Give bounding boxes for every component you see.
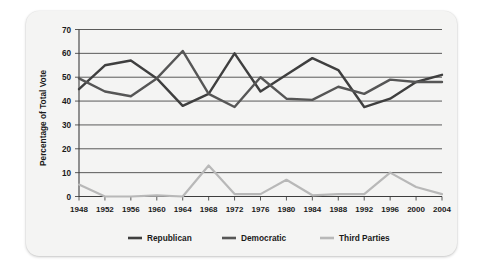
x-tick-label: 2000 — [407, 205, 425, 214]
x-tick-label: 1956 — [122, 205, 140, 214]
gridlines — [75, 30, 442, 197]
x-tick-label: 1992 — [355, 205, 373, 214]
y-tick-label: 50 — [62, 73, 72, 82]
x-tick-label: 1988 — [329, 205, 347, 214]
x-tick-label: 1960 — [148, 205, 166, 214]
y-tick-label: 40 — [62, 97, 72, 106]
x-tick-label: 1984 — [303, 205, 321, 214]
x-tick-label: 1964 — [174, 205, 192, 214]
y-tick-label: 20 — [62, 145, 72, 154]
x-tick-label: 1952 — [96, 205, 114, 214]
legend-label-democratic: Democratic — [241, 233, 287, 243]
y-tick-label: 0 — [66, 193, 71, 202]
y-tick-label: 30 — [62, 121, 72, 130]
chart-legend: RepublicanDemocraticThird Parties — [128, 233, 390, 243]
vote-percentage-line-chart: Percentage of Total Vote 010203040506070… — [0, 0, 483, 267]
chart-container: Percentage of Total Vote 010203040506070… — [0, 0, 483, 267]
x-axis-tick-labels: 1948195219561960196419681972197619801984… — [70, 205, 451, 214]
x-tick-label: 1980 — [278, 205, 296, 214]
y-axis-tick-labels: 010203040506070 — [62, 26, 72, 202]
y-axis-title-group: Percentage of Total Vote — [38, 70, 48, 166]
y-tick-label: 60 — [62, 49, 72, 58]
x-tick-label: 1948 — [70, 205, 88, 214]
legend-label-republican: Republican — [147, 233, 192, 243]
x-tick-label: 1968 — [200, 205, 218, 214]
series-line-third-parties — [79, 165, 442, 196]
y-tick-label: 70 — [62, 26, 72, 35]
x-tick-label: 2004 — [433, 205, 451, 214]
y-axis-title: Percentage of Total Vote — [38, 70, 48, 166]
x-tick-label: 1996 — [381, 205, 399, 214]
y-tick-label: 10 — [62, 169, 72, 178]
x-tick-label: 1972 — [226, 205, 244, 214]
legend-label-third-parties: Third Parties — [339, 233, 390, 243]
x-tick-label: 1976 — [252, 205, 270, 214]
data-series-group — [79, 51, 442, 197]
